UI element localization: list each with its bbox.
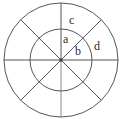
spoke-diagonal-lower-left: [21, 60, 61, 100]
spoke-diagonal-lower-right: [61, 60, 101, 100]
concentric-circle-diagram: c a b d: [0, 0, 122, 119]
circle-sector-graphic: [0, 0, 122, 119]
center-point: [59, 58, 62, 61]
spoke-diagonal-upper-left: [21, 20, 61, 60]
region-label-a: a: [63, 33, 68, 45]
region-label-b: b: [75, 45, 81, 57]
region-label-c: c: [69, 14, 74, 26]
region-label-d: d: [94, 40, 100, 52]
